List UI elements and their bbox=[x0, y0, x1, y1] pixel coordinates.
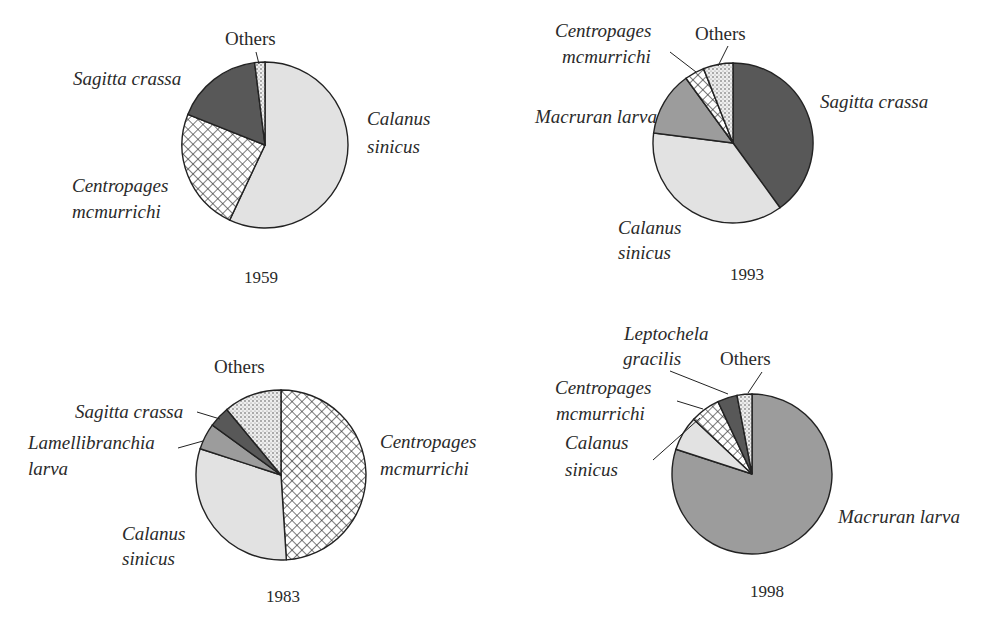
label-centropages-1959-line1: Centropages bbox=[72, 175, 168, 196]
label-calanus-1993-line1: Calanus bbox=[618, 217, 681, 238]
pie-1993-slices bbox=[653, 63, 813, 223]
label-macruran-1998: Macruran larva bbox=[837, 506, 960, 527]
pie-slice-centropages-mcmurrichi bbox=[281, 390, 366, 560]
pie-1983-slices bbox=[196, 390, 366, 560]
label-others-1993: Others bbox=[695, 23, 746, 44]
label-centropages-1959-line2: mcmurrichi bbox=[72, 201, 161, 222]
label-calanus-1998-line2: sinicus bbox=[565, 459, 618, 480]
pie-1959: Others Sagitta crassa Calanus sinicus Ce… bbox=[72, 28, 430, 287]
label-centropages-1998-line1: Centropages bbox=[555, 377, 651, 398]
label-calanus-1998-line1: Calanus bbox=[565, 432, 628, 453]
year-label-1993: 1993 bbox=[730, 265, 764, 284]
label-calanus-1959-line1: Calanus bbox=[367, 108, 430, 129]
year-label-1998: 1998 bbox=[750, 582, 784, 601]
pie-1983: Others Sagitta crassa Lamellibranchia la… bbox=[27, 356, 476, 606]
pie-1993: Centropages mcmurrichi Others Macruran l… bbox=[534, 20, 928, 284]
pie-1959-slices bbox=[182, 62, 348, 228]
label-others-1983: Others bbox=[214, 356, 265, 377]
label-centropages-1983-line2: mcmurrichi bbox=[380, 458, 469, 479]
label-centropages-1993-line1: Centropages bbox=[555, 20, 651, 41]
label-others-1959: Others bbox=[225, 28, 276, 49]
label-sagitta-1959: Sagitta crassa bbox=[73, 68, 181, 89]
pie-1998: Leptochela gracilis Others Centropages m… bbox=[555, 323, 960, 601]
label-sagitta-1993: Sagitta crassa bbox=[820, 91, 928, 112]
label-lamelli-1983-line1: Lamellibranchia bbox=[27, 432, 155, 453]
label-others-1998: Others bbox=[720, 348, 771, 369]
label-calanus-1959-line2: sinicus bbox=[367, 136, 420, 157]
label-leptochela-1998-line1: Leptochela bbox=[623, 323, 708, 344]
pie-1998-slices bbox=[672, 394, 832, 554]
label-centropages-1983-line1: Centropages bbox=[380, 431, 476, 452]
label-calanus-1993-line2: sinicus bbox=[618, 242, 671, 263]
label-macruran-1993: Macruran larva bbox=[534, 106, 657, 127]
label-sagitta-1983: Sagitta crassa bbox=[75, 401, 183, 422]
label-lamelli-1983-line2: larva bbox=[28, 458, 68, 479]
pie-chart-figure: Others Sagitta crassa Calanus sinicus Ce… bbox=[0, 0, 999, 622]
label-calanus-1983-line2: sinicus bbox=[122, 548, 175, 569]
year-label-1983: 1983 bbox=[266, 587, 300, 606]
label-centropages-1993-line2: mcmurrichi bbox=[562, 46, 651, 67]
label-centropages-1998-line2: mcmurrichi bbox=[556, 403, 645, 424]
year-label-1959: 1959 bbox=[244, 268, 278, 287]
label-leptochela-1998-line2: gracilis bbox=[623, 348, 681, 369]
label-calanus-1983-line1: Calanus bbox=[122, 523, 185, 544]
